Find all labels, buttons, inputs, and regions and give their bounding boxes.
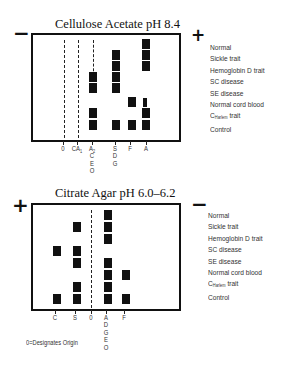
- lane-label-ca-sub: 1: [80, 149, 82, 154]
- legend-item-se-disease: SE disease: [208, 256, 263, 267]
- legend-item-control: Control: [208, 292, 263, 303]
- panel-title-citrate-agar: Citrate Agar pH 6.0–6.2: [55, 186, 175, 201]
- band-sickle-A: [104, 222, 112, 232]
- legend-item-sickle-trait: Sickle trait: [208, 221, 263, 232]
- band-hbd-S: [112, 61, 120, 71]
- legend-item-c-harlem-trait: CHarlem trait: [210, 110, 265, 123]
- band-se-S: [73, 258, 81, 268]
- band-se-A2: [89, 83, 97, 93]
- band-sickle-S: [112, 50, 120, 60]
- band-charlem-S: [73, 282, 81, 292]
- legend-item-hbd-trait: Hemoglobin D trait: [210, 65, 265, 76]
- band-sickle-S: [73, 222, 81, 232]
- band-charlem-A: [104, 282, 112, 292]
- band-sickle-A: [142, 50, 150, 60]
- lane-label-f: F: [118, 314, 130, 322]
- band-control-A: [104, 294, 112, 304]
- legend-item-normal-cord-blood: Normal cord blood: [208, 267, 263, 278]
- lane-origin-dashed: [91, 210, 92, 308]
- band-control-F: [128, 120, 136, 130]
- band-normal-A: [142, 39, 150, 49]
- lane-label-origin: 0: [57, 145, 69, 153]
- lane-label-a-top: A: [140, 145, 152, 153]
- band-sc-C: [53, 246, 61, 256]
- band-sc-S: [112, 72, 120, 82]
- origin-footnote: 0=Designates Origin: [26, 339, 78, 346]
- legend-item-sc-disease: SC disease: [210, 76, 265, 87]
- citrate-agar-gel: [31, 203, 181, 311]
- band-charlem-A: [142, 108, 150, 118]
- lane-label-c: C: [49, 314, 61, 322]
- band-hbd-A: [104, 234, 112, 244]
- lane-label-a-comigrants: D G E O: [100, 321, 112, 351]
- legend-item-normal: Normal: [208, 210, 263, 221]
- legend-item-sickle-trait: Sickle trait: [210, 53, 265, 64]
- legend-item-normal: Normal: [210, 42, 265, 53]
- cathode-minus-sign: −: [13, 23, 30, 43]
- band-se-A: [104, 258, 112, 268]
- lane-label-f: F: [124, 145, 136, 153]
- band-control-S: [73, 294, 81, 304]
- band-control-S: [112, 120, 120, 130]
- band-hbd-A: [142, 61, 150, 71]
- band-sc-S: [73, 246, 81, 256]
- legend-item-se-disease: SE disease: [210, 88, 265, 99]
- band-control-A2: [89, 120, 97, 130]
- legend-top: Normal Sickle trait Hemoglobin D trait S…: [210, 42, 265, 135]
- band-control-C: [53, 294, 61, 304]
- band-normal-A: [104, 210, 112, 220]
- band-cord-A: [104, 270, 112, 280]
- panel-title-cellulose-acetate: Cellulose Acetate pH 8.4: [55, 17, 180, 32]
- lane-label-ca: CA: [72, 145, 80, 152]
- legend-item-normal-cord-blood: Normal cord blood: [210, 99, 265, 110]
- legend-item-c-harlem-trait: CHarlem trait: [208, 278, 263, 291]
- legend-item-control: Control: [210, 124, 265, 135]
- cathode-minus-sign: −: [191, 194, 208, 214]
- lane-label-s-comigrants: D G: [109, 152, 121, 167]
- anode-plus-sign: +: [12, 195, 29, 215]
- legend-item-hbd-trait: Hemoglobin D trait: [208, 233, 263, 244]
- band-cord-F: [122, 270, 130, 280]
- lane-label-origin: 0: [85, 314, 97, 322]
- band-cord-A-faint: [143, 98, 147, 107]
- legend-item-sc-disease: SC disease: [208, 244, 263, 255]
- band-sc-A2: [89, 72, 97, 82]
- band-cord-F: [128, 97, 136, 107]
- lane-ca1-dashed: [78, 40, 79, 138]
- band-charlem-A2: [89, 108, 97, 118]
- legend-bottom: Normal Sickle trait Hemoglobin D trait S…: [208, 210, 263, 303]
- lane-a2-dashed: [93, 40, 94, 76]
- lane-label-a2-comigrants: C E O: [86, 152, 98, 175]
- lane-label-ca1: CA1: [71, 145, 83, 156]
- band-control-A: [142, 120, 150, 130]
- band-se-S: [112, 83, 120, 93]
- band-control-F: [122, 294, 130, 304]
- anode-plus-sign: +: [191, 27, 205, 44]
- cellulose-acetate-gel: [31, 33, 181, 142]
- lane-label-s: S: [69, 314, 81, 322]
- lane-origin-dashed: [64, 40, 65, 138]
